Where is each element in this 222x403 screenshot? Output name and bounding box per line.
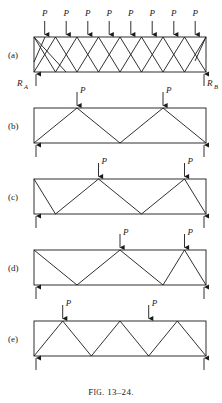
load-label: P	[62, 8, 69, 18]
reaction-left-label: R	[16, 78, 23, 88]
load-label: P	[65, 298, 72, 308]
panel-c-load-arrows	[99, 163, 185, 177]
reaction-left-subscript: A	[23, 83, 28, 90]
figure-caption: FIG. 13–24.	[0, 387, 222, 397]
load-label: P	[151, 298, 158, 308]
panel-b-reaction-arrows	[36, 145, 204, 157]
panel-identifiers: (a) (b) (c) (d) (e)	[8, 50, 19, 344]
load-label: P	[122, 227, 129, 237]
panel-e-truss	[34, 321, 206, 356]
panel-c-truss	[34, 179, 206, 214]
panel-c-reaction-arrows	[36, 216, 204, 228]
load-label: P	[187, 227, 194, 237]
load-label: P	[187, 156, 194, 166]
panel-a-reaction-labels: R A R B	[16, 78, 218, 90]
figure-13-24: P P P P P P P P R A R B P P	[0, 0, 222, 403]
panel-label-e: (e)	[8, 334, 18, 344]
panel-b-webs	[34, 108, 206, 143]
load-label: P	[79, 85, 86, 95]
panel-e-reaction-arrows	[36, 358, 204, 370]
panel-d-load-arrows	[120, 234, 185, 248]
panel-b-load-arrows	[77, 92, 163, 106]
reaction-right-label: R	[206, 78, 213, 88]
reaction-right-subscript: B	[214, 83, 218, 90]
panel-e-load-labels: P P	[65, 298, 158, 308]
load-label: P	[170, 8, 177, 18]
load-label: P	[148, 8, 155, 18]
panel-d-reaction-arrows	[36, 287, 204, 299]
panel-a-load-arrows	[45, 21, 196, 35]
panel-a-truss	[34, 37, 206, 72]
panel-a-load-labels: P P P P P P P P	[41, 8, 199, 18]
panel-d-webs	[34, 250, 206, 285]
panel-e-webs	[34, 321, 206, 356]
panel-label-a: (a)	[8, 50, 18, 60]
panel-a-reaction-arrows	[36, 74, 204, 86]
load-label: P	[41, 8, 48, 18]
panel-a-lattice	[34, 37, 206, 72]
panel-label-c: (c)	[8, 192, 18, 202]
panel-c-load-labels: P P	[101, 156, 194, 166]
caption-rest: . 13–24.	[102, 387, 134, 397]
load-label: P	[84, 8, 91, 18]
panel-c-webs	[34, 179, 206, 214]
panel-e-load-arrows	[63, 305, 149, 319]
panel-d-load-labels: P P	[122, 227, 194, 237]
panel-label-d: (d)	[8, 263, 19, 273]
panel-b-truss	[34, 108, 206, 143]
load-label: P	[191, 8, 198, 18]
load-label: P	[105, 8, 112, 18]
load-label: P	[101, 156, 108, 166]
truss-diagram-svg: P P P P P P P P R A R B P P	[0, 0, 222, 403]
panel-b-load-labels: P P	[79, 85, 172, 95]
load-label: P	[165, 85, 172, 95]
caption-smallcaps: IG	[94, 388, 103, 397]
panel-label-b: (b)	[8, 121, 19, 131]
panel-d-truss	[34, 250, 206, 285]
load-label: P	[127, 8, 134, 18]
